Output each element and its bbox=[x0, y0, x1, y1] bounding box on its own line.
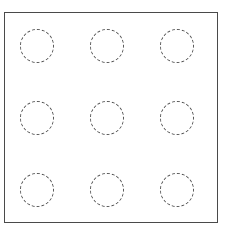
dashed-circle-r2-c1 bbox=[20, 101, 54, 135]
dashed-circle-r3-c1 bbox=[20, 173, 54, 207]
dashed-circle-r1-c3 bbox=[160, 29, 194, 63]
dashed-circle-r1-c2 bbox=[90, 29, 124, 63]
dashed-circle-r3-c3 bbox=[160, 173, 194, 207]
dashed-circle-r1-c1 bbox=[20, 29, 54, 63]
dashed-circle-r3-c2 bbox=[90, 173, 124, 207]
diagram-canvas bbox=[0, 0, 232, 230]
dashed-circle-r2-c3 bbox=[160, 101, 194, 135]
dashed-circle-r2-c2 bbox=[90, 101, 124, 135]
